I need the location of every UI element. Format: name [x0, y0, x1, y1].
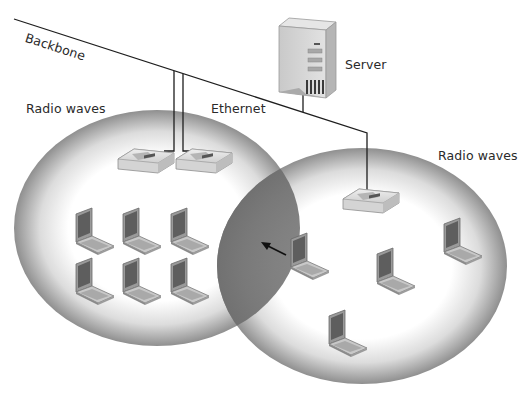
server-tower-icon: [279, 18, 336, 98]
network-diagram: Backbone Radio waves Ethernet Server Rad…: [0, 0, 526, 396]
ethernet-label: Ethernet: [211, 101, 266, 116]
server-label: Server: [345, 57, 387, 72]
radio-waves-label-left: Radio waves: [26, 101, 106, 116]
radio-waves-label-right: Radio waves: [438, 148, 518, 163]
